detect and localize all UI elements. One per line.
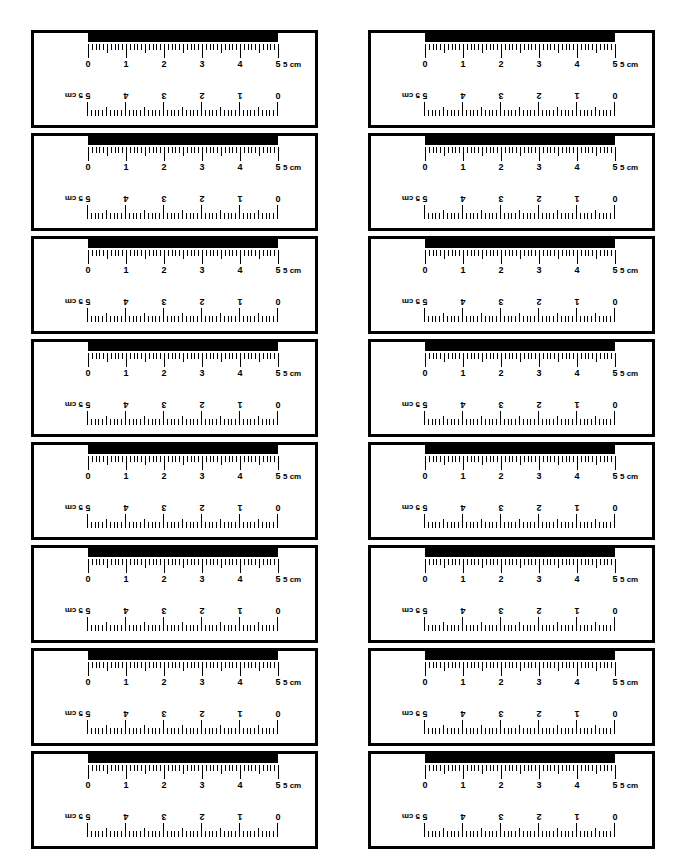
tick-mark-mm: [168, 559, 169, 565]
tick-label: 2: [161, 470, 166, 483]
tick-mark-mm: [554, 44, 555, 50]
tick-band: [425, 204, 615, 219]
ruler-card[interactable]: 0123455 cm0123455 cm: [31, 751, 318, 849]
tick-mark-mm: [432, 419, 433, 425]
unit-label: 5 cm: [283, 779, 301, 792]
tick-mark-mm: [235, 316, 236, 322]
tick-mark-mm: [224, 728, 225, 734]
ruler-card[interactable]: 0123455 cm0123455 cm: [368, 545, 655, 643]
tick-mark-mm: [530, 728, 531, 734]
tick-mark-mm: [436, 353, 437, 359]
tick-mark-mm: [485, 625, 486, 631]
tick-mark-mm: [549, 522, 550, 528]
tick-mark-mm: [216, 419, 217, 425]
tick-mark-mm: [512, 765, 513, 771]
ruler-card[interactable]: 0123455 cm0123455 cm: [368, 648, 655, 746]
tick-mark-mm: [474, 44, 475, 50]
tick-label: 2: [536, 89, 541, 102]
ruler-card[interactable]: 0123455 cm0123455 cm: [368, 30, 655, 128]
unit-label: 5 cm: [283, 58, 301, 71]
ruler-card[interactable]: 0123455 cm0123455 cm: [31, 339, 318, 437]
tick-mark-mm: [197, 316, 198, 322]
tick-mark-cm: [614, 411, 615, 425]
tick-mark-mm: [474, 559, 475, 565]
tick-mark-mm: [549, 419, 550, 425]
tick-mark-mm: [232, 353, 233, 359]
tick-mark-cm: [202, 147, 203, 161]
tick-mark-mm: [224, 831, 225, 837]
tick-mark-mm: [225, 765, 226, 771]
ruler-card[interactable]: 0123455 cm0123455 cm: [368, 751, 655, 849]
tick-label: 5: [422, 810, 427, 823]
tick-label: 4: [123, 89, 128, 102]
ruler-card[interactable]: 0123455 cm0123455 cm: [31, 30, 318, 128]
tick-mark-mm: [148, 831, 149, 837]
tick-mark-mm: [603, 110, 604, 116]
tick-labels: 0123455 cm: [425, 397, 615, 411]
tick-mark-mm: [266, 522, 267, 528]
tick-mark-half: [259, 456, 260, 465]
tick-mark-mm: [198, 147, 199, 153]
tick-mark-mm: [534, 213, 535, 219]
tick-mark-mm: [547, 456, 548, 462]
tick-label: 4: [460, 810, 465, 823]
tick-mark-mm: [547, 353, 548, 359]
tick-label: 5: [612, 58, 617, 71]
tick-mark-mm: [269, 213, 270, 219]
tick-band: [88, 307, 278, 322]
tick-mark-cm: [88, 456, 89, 470]
tick-mark-mm: [213, 456, 214, 462]
tick-mark-mm: [512, 250, 513, 256]
tick-mark-mm: [235, 522, 236, 528]
tick-mark-cm: [163, 205, 164, 219]
tick-mark-mm: [228, 522, 229, 528]
tick-mark-cm: [463, 353, 464, 367]
tick-label: 3: [536, 470, 541, 483]
tick-mark-cm: [201, 823, 202, 837]
tick-mark-cm: [126, 147, 127, 161]
ruler-card[interactable]: 0123455 cm0123455 cm: [368, 442, 655, 540]
tick-mark-half: [221, 559, 222, 568]
ruler-card[interactable]: 0123455 cm0123455 cm: [368, 339, 655, 437]
tick-mark-mm: [448, 147, 449, 153]
tick-mark-mm: [212, 522, 213, 528]
tick-mark-mm: [133, 625, 134, 631]
tick-mark-mm: [459, 250, 460, 256]
tick-mark-mm: [542, 728, 543, 734]
tick-mark-mm: [428, 728, 429, 734]
tick-mark-mm: [600, 147, 601, 153]
tick-band: [88, 559, 278, 574]
tick-mark-mm: [198, 44, 199, 50]
tick-mark-mm: [159, 213, 160, 219]
tick-mark-cm: [425, 353, 426, 367]
solid-black-bar: [88, 136, 278, 145]
tick-mark-half: [519, 210, 520, 219]
tick-mark-cm: [126, 353, 127, 367]
tick-mark-mm: [553, 728, 554, 734]
ruler-card[interactable]: 0123455 cm0123455 cm: [31, 442, 318, 540]
tick-mark-mm: [492, 625, 493, 631]
ruler-card[interactable]: 0123455 cm0123455 cm: [31, 545, 318, 643]
tick-label: 3: [161, 604, 166, 617]
tick-mark-cm: [240, 662, 241, 676]
tick-mark-half: [183, 147, 184, 156]
tick-mark-mm: [114, 213, 115, 219]
tick-mark-mm: [155, 625, 156, 631]
tick-mark-cm: [87, 720, 88, 734]
tick-mark-mm: [523, 110, 524, 116]
tick-labels: 0123455 cm: [425, 676, 615, 690]
tick-mark-mm: [103, 147, 104, 153]
ruler-card[interactable]: 0123455 cm0123455 cm: [368, 133, 655, 231]
ruler-card[interactable]: 0123455 cm0123455 cm: [31, 648, 318, 746]
tick-mark-cm: [239, 205, 240, 219]
ruler-card[interactable]: 0123455 cm0123455 cm: [368, 236, 655, 334]
tick-mark-mm: [587, 316, 588, 322]
ruler-card[interactable]: 0123455 cm0123455 cm: [31, 236, 318, 334]
tick-mark-mm: [569, 147, 570, 153]
tick-mark-cm: [163, 102, 164, 116]
tick-label: 2: [161, 676, 166, 689]
ruler-card[interactable]: 0123455 cm0123455 cm: [31, 133, 318, 231]
tick-mark-mm: [493, 250, 494, 256]
tick-mark-half: [258, 828, 259, 837]
tick-mark-mm: [508, 522, 509, 528]
